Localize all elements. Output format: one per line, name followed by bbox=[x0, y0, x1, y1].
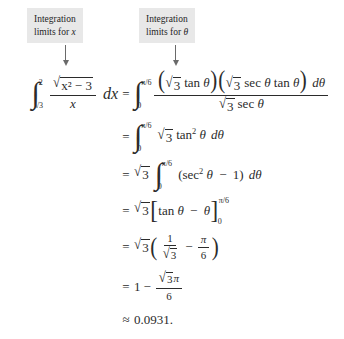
equation-line-2-body: √3tan2 θdθ bbox=[157, 127, 223, 146]
integral-line3-lower-limit: 0 bbox=[158, 182, 168, 191]
equation-block: ∫ 2 √3 √x² − 3 x dx = ∫ bbox=[0, 72, 344, 332]
arrow-theta-head bbox=[173, 60, 179, 66]
bracket-left-icon: [ bbox=[150, 200, 159, 220]
coefficient-sqrt3-line4: √3 bbox=[134, 201, 150, 219]
radical-x2-minus-3: √x² − 3 bbox=[53, 76, 93, 94]
frac-l6-denominator: 6 bbox=[163, 289, 175, 303]
equation-line-5: = √3 ( 1 √3 − π 6 ) bbox=[0, 232, 344, 263]
fraction-sqrt3pi-over-6: √3π 6 bbox=[156, 271, 182, 302]
fraction-lhs: √x² − 3 x bbox=[50, 76, 96, 112]
fraction-lhs-numerator: √x² − 3 bbox=[50, 76, 96, 96]
relation-7: ≈ bbox=[118, 312, 134, 328]
arrow-down-icon-x bbox=[61, 45, 70, 67]
evaluation-limits: π/6 0 bbox=[219, 198, 229, 224]
equation-line-2: = ∫ π/6 0 √3tan2 θdθ bbox=[0, 122, 344, 152]
callout-x-line1: Integration bbox=[34, 13, 76, 26]
relation-1: = bbox=[118, 86, 134, 102]
radical-sign-icon: √ bbox=[53, 74, 60, 95]
equation-line-6-rhs: 1 − √3π 6 bbox=[134, 271, 344, 302]
callout-theta-line2-prefix: limits for bbox=[146, 27, 181, 37]
integral-line2: ∫ π/6 0 bbox=[134, 122, 151, 152]
relation-5: = bbox=[118, 239, 134, 255]
radical-sign-icon-l5: √ bbox=[134, 237, 141, 258]
callout-theta-line2: limits for θ bbox=[146, 26, 188, 39]
integral-line2-lower-limit: 0 bbox=[137, 144, 147, 153]
integral-rhs-upper-limit: π/6 bbox=[141, 78, 151, 87]
integral-line2-upper-limit: π/6 bbox=[141, 121, 151, 130]
relation-4: = bbox=[118, 203, 134, 219]
operator-minus-l6: − bbox=[141, 279, 154, 295]
paren-right-icon-l5: ) bbox=[211, 238, 219, 257]
integral-line3-upper-limit: π/6 bbox=[162, 159, 172, 168]
callout-box-integration-limits-x: Integration limits for x bbox=[27, 8, 83, 43]
arrow-x-head bbox=[63, 60, 69, 66]
radical-sign-icon-n1: √ bbox=[165, 75, 172, 96]
fraction-pi-over-6: π 6 bbox=[198, 233, 210, 261]
arrow-x-shaft bbox=[65, 45, 66, 61]
arrow-theta-shaft bbox=[175, 45, 176, 61]
radical-sign-icon-l6: √ bbox=[159, 270, 166, 288]
operator-minus-l5: − bbox=[182, 239, 195, 255]
frac-l5a-denominator: √3 bbox=[160, 246, 181, 263]
callout-box-integration-limits-theta: Integration limits for θ bbox=[139, 8, 195, 43]
equation-line-2-rhs: ∫ π/6 0 √3tan2 θdθ bbox=[134, 122, 344, 152]
frac-l5b-numerator: π bbox=[198, 233, 210, 248]
callout-theta-variable: θ bbox=[183, 27, 188, 37]
eval-lower-limit: 0 bbox=[218, 217, 228, 226]
callout-x-line2: limits for x bbox=[34, 26, 76, 39]
equation-line-1: ∫ 2 √3 √x² − 3 x dx = ∫ bbox=[0, 72, 344, 116]
callout-x-line2-prefix: limits for bbox=[34, 27, 69, 37]
fraction-lhs-denominator: x bbox=[67, 96, 79, 112]
callout-x-variable: x bbox=[71, 27, 75, 37]
radical-sign-icon-l2: √ bbox=[157, 127, 164, 148]
radical-sign-icon-l4: √ bbox=[134, 200, 141, 221]
equation-line-7-rhs: 0.0931. bbox=[134, 312, 344, 328]
equation-line-6: = 1 − √3π 6 bbox=[0, 271, 344, 302]
equation-line-1-rhs: ∫ π/6 0 (√3tan θ)(√3sec θ tan θ)dθ √3sec… bbox=[134, 72, 344, 116]
integral-line3: ∫ π/6 0 bbox=[155, 160, 172, 190]
eval-upper-limit: π/6 bbox=[219, 196, 229, 205]
relation-3: = bbox=[118, 167, 134, 183]
coefficient-sqrt3-line5: √3 bbox=[134, 238, 150, 256]
frac-l6-numerator: √3π bbox=[156, 271, 182, 289]
radical-sign-icon-l3: √ bbox=[134, 164, 141, 185]
equation-line-3-body: (sec2 θ − 1)dθ bbox=[178, 167, 261, 183]
integral-lhs-lower-limit: √3 bbox=[35, 101, 43, 110]
fraction-rhs-numerator: (√3tan θ)(√3sec θ tan θ)dθ bbox=[154, 72, 328, 96]
equation-line-3: = √3 ∫ π/6 0 (sec2 θ − 1)dθ bbox=[0, 160, 344, 190]
equation-line-4-rhs: √3 [ tan θ − θ ] π/6 0 bbox=[134, 198, 344, 224]
relation-2: = bbox=[118, 129, 134, 145]
callout-theta-line1: Integration bbox=[146, 13, 188, 26]
fraction-rhs: (√3tan θ)(√3sec θ tan θ)dθ √3sec θ bbox=[154, 72, 328, 116]
frac-l5b-denominator: 6 bbox=[198, 248, 210, 262]
arrow-down-icon-theta bbox=[171, 45, 180, 67]
paren-left-icon-l5: ( bbox=[150, 238, 158, 257]
fraction-one-over-sqrt3: 1 √3 bbox=[160, 232, 181, 263]
equation-line-3-rhs: √3 ∫ π/6 0 (sec2 θ − 1)dθ bbox=[134, 160, 344, 190]
equation-line-1-lhs: ∫ 2 √3 √x² − 3 x dx bbox=[0, 76, 118, 112]
integral-rhs-lower-limit: 0 bbox=[137, 101, 147, 110]
final-value: 0.0931. bbox=[134, 312, 173, 328]
differential-dx: dx bbox=[103, 85, 118, 103]
equation-line-4: = √3 [ tan θ − θ ] π/6 0 bbox=[0, 198, 344, 224]
equation-line-7: ≈ 0.0931. bbox=[0, 310, 344, 330]
radical-sign-icon-l5b: √ bbox=[163, 246, 170, 264]
bracket-body: tan θ − θ bbox=[158, 203, 210, 219]
equation-line-5-rhs: √3 ( 1 √3 − π 6 ) bbox=[134, 232, 344, 263]
radical-sign-icon-n2: √ bbox=[226, 75, 233, 96]
evaluation-bracket: [ tan θ − θ ] π/6 0 bbox=[150, 198, 229, 224]
radicand-x2-minus-3: x² − 3 bbox=[60, 77, 93, 94]
relation-6: = bbox=[118, 279, 134, 295]
integral-lhs: ∫ 2 √3 bbox=[31, 79, 47, 109]
fraction-rhs-denominator: √3sec θ bbox=[216, 96, 267, 115]
coefficient-sqrt3-line3: √3 bbox=[134, 165, 150, 183]
integral-rhs: ∫ π/6 0 bbox=[134, 79, 151, 109]
integral-lhs-upper-limit: 2 bbox=[39, 78, 47, 87]
radical-sign-icon-d1: √ bbox=[219, 96, 226, 117]
